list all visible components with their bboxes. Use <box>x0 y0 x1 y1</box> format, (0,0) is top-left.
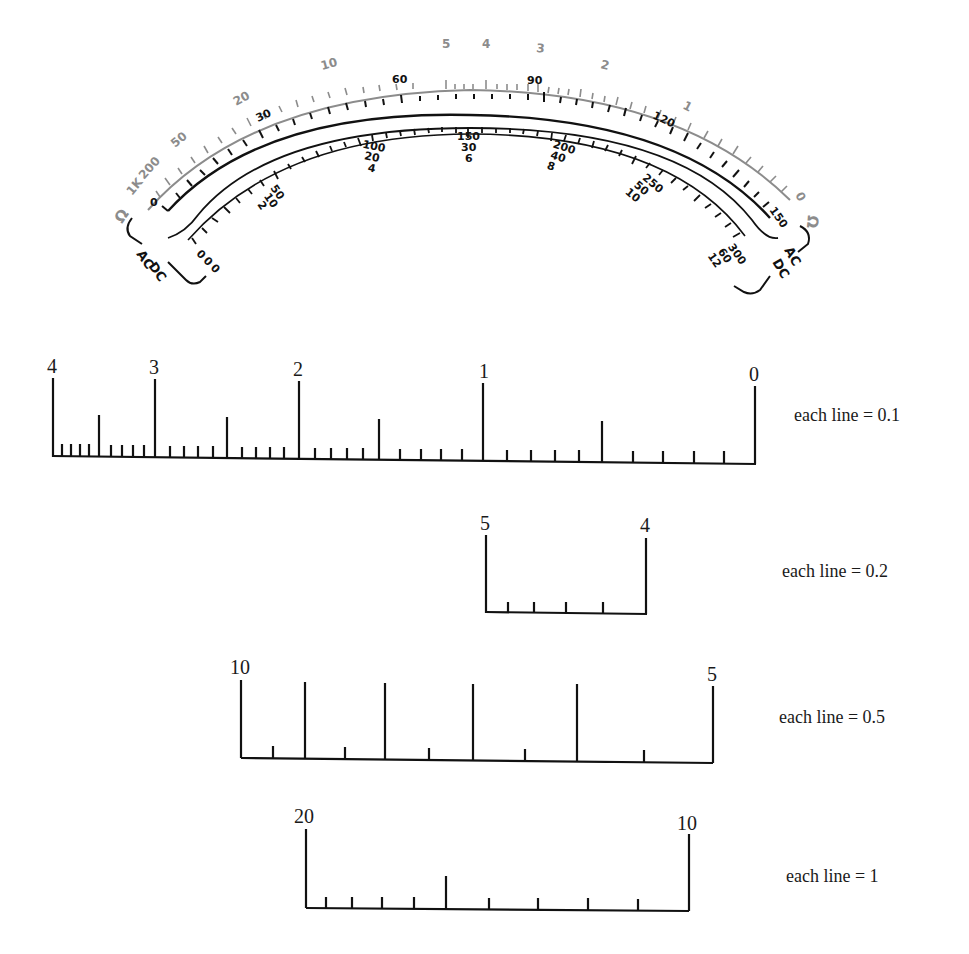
svg-text:90: 90 <box>527 74 543 87</box>
scale-2-right-label: 4 <box>640 514 650 536</box>
scale-3-caption: each line = 0.5 <box>779 707 885 728</box>
scale-2-caption: each line = 0.2 <box>782 561 888 582</box>
meter-face: Ω 1K 200 50 20 10 5 4 3 2 1 0 Ω <box>0 0 969 330</box>
scale-1-label-1: 1 <box>479 360 489 382</box>
scale-1-label-3: 3 <box>149 356 159 378</box>
scale-labels: 4 3 2 1 0 5 4 10 5 20 10 <box>47 355 759 834</box>
svg-text:1: 1 <box>681 98 695 114</box>
svg-text:200: 200 <box>136 154 163 182</box>
svg-text:30: 30 <box>254 106 274 124</box>
scale-2 <box>486 535 647 614</box>
svg-text:50: 50 <box>168 129 190 150</box>
right-acdc-labels: AC DC <box>769 244 804 281</box>
svg-text:8: 8 <box>545 159 556 174</box>
svg-text:4: 4 <box>367 161 378 175</box>
svg-text:5: 5 <box>442 37 450 51</box>
svg-text:0: 0 <box>792 190 808 204</box>
svg-text:20: 20 <box>231 88 252 108</box>
scale-3-right-label: 5 <box>707 663 717 685</box>
scale-2-left-label: 5 <box>480 512 490 534</box>
scale-4 <box>306 829 689 911</box>
scale-3 <box>241 680 713 763</box>
scale-1-right-label: 0 <box>749 363 759 385</box>
svg-text:0: 0 <box>150 196 158 209</box>
svg-text:10: 10 <box>319 55 339 73</box>
scale-4-caption: each line = 1 <box>786 866 879 887</box>
voltage-lower-labels: 0 0 0 50 10 2 100 20 4 150 30 6 200 40 8… <box>194 130 749 280</box>
scale-4-left-label: 20 <box>294 805 314 827</box>
scale-1 <box>52 378 756 464</box>
scale-1-label-2: 2 <box>293 358 303 380</box>
scale-3-left-label: 10 <box>230 656 250 678</box>
svg-text:2: 2 <box>255 199 270 213</box>
svg-text:4: 4 <box>482 37 490 51</box>
svg-text:3: 3 <box>536 41 546 56</box>
left-acdc-labels: AC DC <box>134 247 170 284</box>
svg-text:2: 2 <box>599 57 610 73</box>
scale-1-caption: each line = 0.1 <box>794 405 900 426</box>
scale-4-right-label: 10 <box>677 812 697 834</box>
scale-1-left-label: 4 <box>47 355 57 377</box>
svg-text:60: 60 <box>392 73 408 86</box>
svg-text:6: 6 <box>465 152 473 165</box>
ohm-unit-label-right: Ω <box>803 215 822 230</box>
